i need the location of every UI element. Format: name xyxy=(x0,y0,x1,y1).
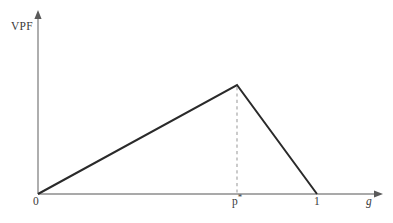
vpf-chart-figure: VPF g 0 p* 1 xyxy=(0,0,393,223)
y-axis-arrowhead-icon xyxy=(34,10,41,19)
y-axis-title: VPF xyxy=(11,21,33,33)
chart-canvas xyxy=(0,0,393,223)
x-tick-label-origin: 0 xyxy=(33,196,39,208)
vpf-curve xyxy=(38,85,317,194)
x-tick-label-p-star: p* xyxy=(232,196,242,208)
x-axis-title: g xyxy=(366,196,372,208)
x-tick-label-one: 1 xyxy=(314,196,320,208)
x-axis-arrowhead-icon xyxy=(374,190,383,197)
x-tick-label-p-star-asterisk: * xyxy=(238,192,243,202)
